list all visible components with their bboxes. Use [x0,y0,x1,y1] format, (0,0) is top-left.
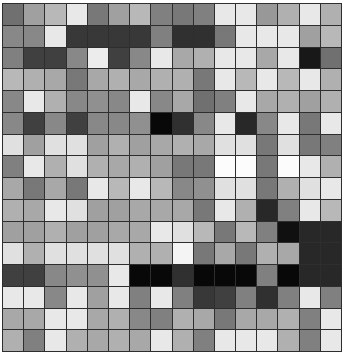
grid-cell [109,243,129,264]
grid-cell [151,113,171,134]
grid-cell [24,178,44,199]
grid-cell [3,178,23,199]
grid-cell [321,113,341,134]
grid-cell [151,243,171,264]
grid-cell [67,69,87,90]
grid-cell [67,91,87,112]
grid-cell [278,113,298,134]
grid-cell [300,265,320,286]
grid-cell [67,156,87,177]
grid-cell [257,26,277,47]
grid-cell [194,309,214,330]
grid-cell [88,265,108,286]
grid-cell [173,135,193,156]
grid-cell [173,309,193,330]
grid-cell [151,48,171,69]
grid-cell [67,243,87,264]
grid-cell [67,178,87,199]
grid-cell [236,4,256,25]
grid-cell [45,309,65,330]
grid-cell [3,222,23,243]
grid-cell [151,178,171,199]
grid-cell [321,243,341,264]
grid-cell [88,309,108,330]
grid-cell [236,156,256,177]
grid-cell [236,135,256,156]
grid-cell [45,222,65,243]
grid-cell [278,91,298,112]
grid-cell [215,265,235,286]
grid-cell [3,48,23,69]
grid-cell [67,309,87,330]
grid-cell [173,265,193,286]
grid-cell [3,4,23,25]
grid-cell [236,265,256,286]
grayscale-grid [2,3,342,352]
grid-cell [257,113,277,134]
grid-cell [24,69,44,90]
grid-cell [278,48,298,69]
grid-cell [236,69,256,90]
grid-cell [151,200,171,221]
grid-cell [300,91,320,112]
grid-cell [3,69,23,90]
grid-cell [194,222,214,243]
grid-cell [300,69,320,90]
grid-cell [300,200,320,221]
grid-cell [130,48,150,69]
grid-cell [257,156,277,177]
grid-cell [88,69,108,90]
grid-cell [300,309,320,330]
grid-cell [88,243,108,264]
grid-cell [109,91,129,112]
grid-cell [236,26,256,47]
grid-cell [257,69,277,90]
grid-cell [194,4,214,25]
grid-cell [3,156,23,177]
grid-cell [215,135,235,156]
grid-cell [194,26,214,47]
grid-cell [45,156,65,177]
grid-cell [215,26,235,47]
grid-cell [173,243,193,264]
grid-cell [194,91,214,112]
grid-cell [215,48,235,69]
grid-cell [300,4,320,25]
grid-cell [278,265,298,286]
grid-cell [236,287,256,308]
grid-cell [278,287,298,308]
grid-cell [215,69,235,90]
grid-cell [88,135,108,156]
grid-cell [130,69,150,90]
grid-cell [257,330,277,351]
grid-cell [3,243,23,264]
grid-cell [88,48,108,69]
grid-cell [236,48,256,69]
grid-cell [88,4,108,25]
grid-cell [151,287,171,308]
grid-cell [278,200,298,221]
grid-cell [194,265,214,286]
grid-cell [24,135,44,156]
grid-cell [3,330,23,351]
grid-cell [109,330,129,351]
grid-cell [257,309,277,330]
grid-cell [321,222,341,243]
grid-cell [109,222,129,243]
grid-cell [173,26,193,47]
grid-cell [278,4,298,25]
grid-cell [88,222,108,243]
grid-cell [130,222,150,243]
grid-cell [45,48,65,69]
grid-cell [257,200,277,221]
grid-cell [300,287,320,308]
grid-cell [151,4,171,25]
grid-cell [215,113,235,134]
grid-cell [278,135,298,156]
grid-cell [173,200,193,221]
grid-cell [278,26,298,47]
grid-cell [257,48,277,69]
grid-cell [236,200,256,221]
grid-cell [109,287,129,308]
grid-cell [3,113,23,134]
